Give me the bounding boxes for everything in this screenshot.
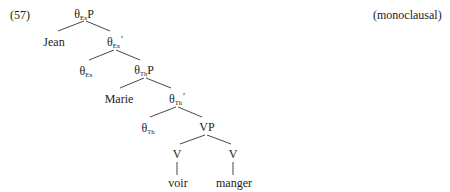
- theta-role-subscript: Th: [140, 70, 147, 77]
- tree-node-thetaThP: θThP: [134, 64, 154, 80]
- theta-role-subscript: Th: [147, 128, 154, 135]
- node-label: Jean: [43, 35, 64, 49]
- bar-level-prime: ′: [183, 91, 185, 102]
- bar-level-prime: ′: [121, 34, 123, 45]
- node-label: V: [229, 147, 238, 161]
- theta-role-subscript: Ex: [85, 71, 92, 78]
- theta-role-subscript: Ex: [80, 14, 87, 21]
- theta-role-subscript: Ex: [113, 42, 120, 49]
- tree-node-voir: voir: [168, 177, 187, 190]
- tree-node-manger: manger: [216, 177, 252, 190]
- tree-node-thetaEx: θEx: [80, 65, 93, 81]
- node-label: V: [173, 147, 182, 161]
- tree-node-V2: V: [229, 148, 238, 161]
- phrase-suffix: P: [147, 63, 154, 77]
- tree-edges: [0, 0, 450, 192]
- phrase-suffix: P: [87, 7, 94, 21]
- tree-node-VP: VP: [199, 121, 214, 134]
- tree-node-thetaTh: θTh: [142, 122, 155, 138]
- node-label: manger: [216, 176, 252, 190]
- tree-node-thetaExP: θExP: [74, 8, 94, 24]
- node-label: Marie: [105, 92, 134, 106]
- tree-node-thetaThBar: θTh′: [169, 93, 185, 109]
- tree-node-V1: V: [173, 148, 182, 161]
- tree-edge-VP-V1: [180, 135, 205, 144]
- tree-node-jean: Jean: [43, 36, 64, 49]
- theta-role-subscript: Th: [175, 99, 182, 106]
- tree-node-thetaExBar: θEx′: [107, 36, 123, 52]
- node-label: voir: [168, 176, 187, 190]
- tree-edge-VP-V2: [207, 135, 231, 144]
- tree-node-marie: Marie: [105, 93, 134, 106]
- node-label: VP: [199, 120, 214, 134]
